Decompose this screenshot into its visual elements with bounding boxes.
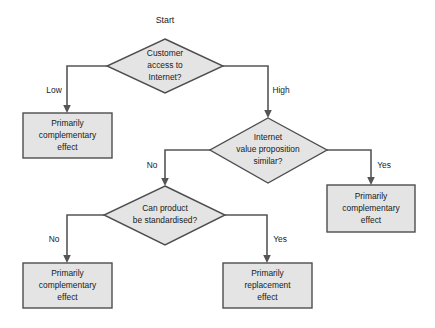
edge-label-low: Low [46,85,62,95]
outcome-replacement-yes-line2: replacement [244,280,291,290]
edge-no-lower-line [67,215,104,256]
edge-yes-lower-line [225,215,267,256]
connector-layer [63,66,375,263]
edge-yes-lower-arrowhead [263,255,271,263]
decision-customer-access-line1: Customer [147,48,184,58]
decision-customer-access-line2: access to [147,60,183,70]
edge-yes-upper-arrowhead [367,177,375,185]
decision-value-proposition[interactable]: Internet value proposition similar? [210,118,327,183]
outcome-complementary-no-line2: complementary [39,280,97,290]
outcome-complementary-low-line3: effect [57,142,78,152]
decision-value-proposition-line3: similar? [254,156,283,166]
edge-low-line [67,66,107,106]
edge-no-upper-line [165,150,210,179]
edge-high-line [223,66,268,111]
edge-no-upper-arrowhead [161,178,169,186]
decision-customer-access-line3: Internet? [148,72,181,82]
edge-label-no-lower: No [49,234,60,244]
decision-value-proposition-line2: value proposition [236,144,300,154]
outcome-complementary-low-line1: Primarily [51,118,84,128]
decision-standardised[interactable]: Can product be standardised? [104,186,225,245]
edge-label-yes-upper: Yes [377,160,391,170]
outcome-complementary-yes-line3: effect [361,215,382,225]
outcome-complementary-yes-line1: Primarily [355,191,388,201]
decision-standardised-line2: be standardised? [133,215,198,225]
outcome-complementary-low-line2: complementary [39,130,97,140]
outcome-complementary-no-line3: effect [57,292,78,302]
outcome-complementary-yes-line2: complementary [342,203,400,213]
outcome-replacement-yes-line1: Primarily [251,268,284,278]
outcome-complementary-low[interactable]: Primarily complementary effect [23,113,112,158]
decision-standardised-line1: Can product [142,203,188,213]
start-label: Start [156,15,175,25]
outcome-complementary-yes[interactable]: Primarily complementary effect [327,185,415,232]
edge-yes-upper-line [327,150,371,178]
outcome-complementary-no[interactable]: Primarily complementary effect [23,263,112,308]
edge-label-yes-lower: Yes [273,234,287,244]
edge-no-lower-arrowhead [63,255,71,263]
edge-label-high: High [272,85,290,95]
edge-high-arrowhead [264,110,272,118]
flowchart-canvas: Start Customer access to Internet? Inter… [0,0,435,328]
outcome-replacement-yes[interactable]: Primarily replacement effect [223,263,312,308]
outcome-complementary-no-line1: Primarily [51,268,84,278]
edge-low-arrowhead [63,105,71,113]
decision-value-proposition-line1: Internet [254,132,283,142]
edge-label-no-upper: No [147,160,158,170]
decision-customer-access[interactable]: Customer access to Internet? [107,39,223,93]
outcome-replacement-yes-line3: effect [257,292,278,302]
flowchart-container: Start Customer access to Internet? Inter… [0,0,435,328]
